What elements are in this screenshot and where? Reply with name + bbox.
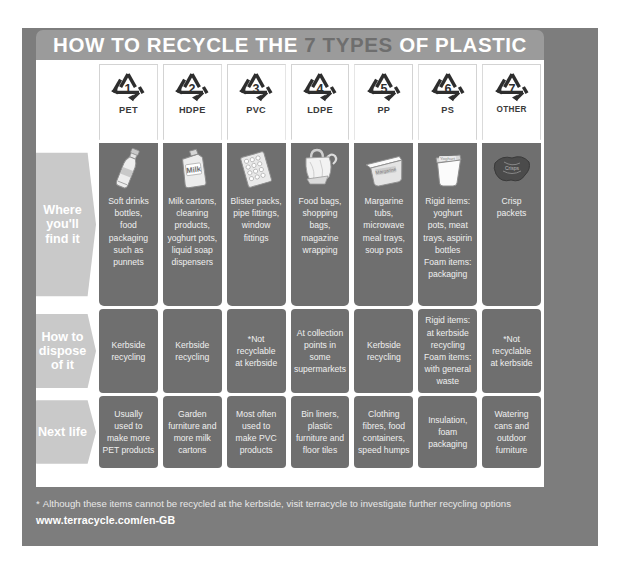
page-title: HOW TO RECYCLE THE 7 TYPES OF PLASTIC — [53, 33, 527, 57]
cell-text: Soft drinks bottles, food packaging such… — [105, 195, 152, 268]
plastic-type-abbreviation: PS — [441, 105, 454, 115]
milk-jug-icon: Milk — [163, 145, 222, 193]
title-part-2: OF PLASTIC — [393, 33, 527, 56]
poster-title-bar: HOW TO RECYCLE THE 7 TYPES OF PLASTIC — [36, 30, 544, 60]
column-header-banner: 4LDPE — [291, 64, 350, 140]
cell-text: Margarine tubs, microwave meal trays, so… — [360, 195, 408, 256]
table-panel: 1PET2HDPE3PVC4LDPE5PP6PS7OTHER Where you… — [36, 60, 544, 487]
cell-text: Food bags, shopping bags, magazine wrapp… — [296, 195, 345, 256]
column-header-banner: 2HDPE — [163, 64, 222, 140]
plastic-type-abbreviation: PVC — [246, 105, 266, 115]
cell-text: Crisp packets — [494, 195, 530, 219]
svg-text:3: 3 — [253, 82, 260, 96]
blister-pack-icon — [227, 145, 286, 193]
cell-text: Rigid items: yoghurt pots, meat trays, a… — [420, 195, 475, 280]
column-header-banner: 5PP — [354, 64, 413, 140]
table-row: Where you'll find it Soft drinks bottles… — [36, 143, 544, 306]
recycling-triangle-3: 3 — [236, 70, 276, 104]
svg-text:1: 1 — [125, 82, 132, 96]
row-label-text: How to dispose of it — [36, 330, 96, 372]
table-cell: CrispsCrisp packets — [482, 143, 541, 306]
column-header-ps: 6PS — [418, 64, 477, 140]
svg-text:4: 4 — [317, 82, 324, 96]
row-cells: Soft drinks bottles, food packaging such… — [96, 143, 541, 306]
plastic-type-abbreviation: PET — [119, 105, 138, 115]
table-cell: *Not recyclable at kerbside — [227, 309, 286, 393]
table-cell: Soft drinks bottles, food packaging such… — [99, 143, 158, 306]
cell-text: Insulation, foam packaging — [425, 410, 470, 455]
table-cell: Watering cans and outdoor furniture — [482, 396, 541, 468]
cell-text: Usually used to make more PET products — [99, 404, 157, 461]
svg-text:5: 5 — [380, 82, 387, 96]
cell-text: Blister packs, pipe fittings, window fit… — [228, 195, 285, 244]
row-label-next-life: Next life — [36, 396, 96, 468]
table-cell: MargarineMargarine tubs, microwave meal … — [354, 143, 413, 306]
asterisk-marker: * — [36, 498, 40, 509]
margarine-tub-icon: Margarine — [354, 145, 413, 193]
column-header-banner: 3PVC — [227, 64, 286, 140]
column-header-other: 7OTHER — [482, 64, 541, 140]
yoghurt-pot-icon: Yoghurt — [418, 145, 477, 193]
crisp-packet-icon: Crisps — [482, 145, 541, 193]
table-cell: At collection points in some supermarket… — [291, 309, 350, 393]
recycling-triangle-5: 5 — [364, 70, 404, 104]
column-header-pet: 1PET — [99, 64, 158, 140]
cell-text: Most often used to make PVC products — [233, 404, 280, 461]
table-cell: Kerbside recycling — [163, 309, 222, 393]
table-row: Next life Usually used to make more PET … — [36, 396, 544, 468]
svg-text:Crisps: Crisps — [504, 165, 519, 171]
cell-text: Kerbside recycling — [172, 335, 212, 367]
table-cell: Most often used to make PVC products — [227, 396, 286, 468]
column-header-hdpe: 2HDPE — [163, 64, 222, 140]
cell-text: *Not recyclable at kerbside — [232, 329, 280, 374]
column-header-banner: 1PET — [99, 64, 158, 140]
row-cells: Usually used to make more PET productsGa… — [96, 396, 541, 468]
recycling-triangle-6: 6 — [428, 70, 468, 104]
svg-text:2: 2 — [189, 82, 196, 96]
terracycle-url[interactable]: www.terracycle.com/en-GB — [36, 514, 556, 526]
cell-text: Watering cans and outdoor furniture — [491, 404, 532, 461]
table-cell: *Not recyclable at kerbside — [482, 309, 541, 393]
cell-text: *Not recyclable at kerbside — [488, 329, 536, 374]
recycling-triangle-1: 1 — [108, 70, 148, 104]
column-header-row: 1PET2HDPE3PVC4LDPE5PP6PS7OTHER — [36, 60, 544, 143]
cell-text: Clothing fibres, food containers, speed … — [355, 404, 413, 461]
cell-text: Kerbside recycling — [364, 335, 404, 367]
footnote: *Although these items cannot be recycled… — [36, 497, 556, 511]
cell-text: Garden furniture and more milk cartons — [165, 404, 219, 461]
table-cell: Kerbside recycling — [354, 309, 413, 393]
plastic-type-abbreviation: PP — [377, 105, 390, 115]
table-row: How to dispose of it Kerbside recyclingK… — [36, 309, 544, 393]
table-cell: YoghurtRigid items: yoghurt pots, meat t… — [418, 143, 477, 306]
table-cell: MilkMilk cartons, cleaning products, yog… — [163, 143, 222, 306]
cell-text: Kerbside recycling — [108, 335, 148, 367]
footer: *Although these items cannot be recycled… — [36, 497, 556, 526]
svg-text:Yoghurt: Yoghurt — [440, 156, 456, 161]
plastic-type-abbreviation: LDPE — [307, 105, 333, 115]
recycling-triangle-4: 4 — [300, 70, 340, 104]
table-cell: Clothing fibres, food containers, speed … — [354, 396, 413, 468]
row-label-text: Where you'll find it — [36, 203, 96, 245]
table-cell: Blister packs, pipe fittings, window fit… — [227, 143, 286, 306]
row-label-text: Next life — [38, 425, 94, 439]
table-cell: Usually used to make more PET products — [99, 396, 158, 468]
table-cell: Insulation, foam packaging — [418, 396, 477, 468]
table-cell: Food bags, shopping bags, magazine wrapp… — [291, 143, 350, 306]
title-part-1: HOW TO RECYCLE THE — [53, 33, 304, 56]
table-cell: Garden furniture and more milk cartons — [163, 396, 222, 468]
table-cell: Kerbside recycling — [99, 309, 158, 393]
cell-text: Bin liners, plastic furniture and floor … — [293, 404, 347, 461]
table-cell: Bin liners, plastic furniture and floor … — [291, 396, 350, 468]
row-cells: Kerbside recyclingKerbside recycling*Not… — [96, 309, 541, 393]
plastic-type-abbreviation: HDPE — [179, 105, 206, 115]
cell-text: Rigid items: at kerbside recycling Foam … — [421, 310, 474, 391]
recycling-triangle-7: 7 — [492, 70, 532, 104]
recycling-triangle-2: 2 — [172, 70, 212, 104]
plastic-bottle-icon — [99, 145, 158, 193]
column-header-ldpe: 4LDPE — [291, 64, 350, 140]
cell-text: Milk cartons, cleaning products, yoghurt… — [164, 195, 220, 268]
title-highlight: 7 TYPES — [304, 33, 393, 56]
shopping-bag-icon — [291, 145, 350, 193]
cell-text: At collection points in some supermarket… — [291, 323, 349, 380]
row-label-where-youll-find-it: Where you'll find it — [36, 143, 96, 306]
